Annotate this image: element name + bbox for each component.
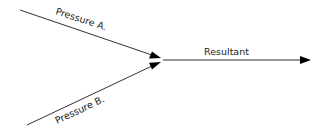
pressure-b-label: Pressure B. (53, 93, 106, 125)
resultant-label: Resultant (204, 46, 249, 57)
pressure-b-arrowhead-icon (149, 62, 161, 70)
force-diagram: Pressure A. Pressure B. Resultant (0, 0, 326, 136)
pressure-b-line (27, 66, 152, 125)
resultant-vector (163, 56, 311, 64)
pressure-a-arrowhead-icon (149, 52, 161, 59)
resultant-arrowhead-icon (300, 56, 311, 64)
pressure-b-vector (27, 62, 161, 125)
pressure-a-label: Pressure A. (54, 5, 108, 32)
